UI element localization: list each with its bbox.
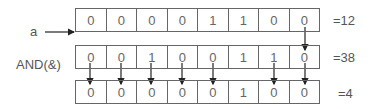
operand-a-value: =12: [333, 13, 355, 28]
operand-a-label: a: [30, 24, 37, 39]
result-value: =4: [338, 86, 353, 101]
bit-cell: 0: [198, 81, 229, 103]
and-operator-label: AND(&): [16, 57, 61, 72]
bit-cell: 0: [290, 81, 320, 103]
bit-cell: 1: [229, 46, 260, 68]
bit-cell: 0: [168, 9, 199, 31]
bit-cell: 0: [137, 9, 168, 31]
bit-cell: 0: [290, 9, 320, 31]
operand-a-bits: 0 0 0 0 1 1 0 0: [75, 8, 320, 32]
bit-cell: 1: [259, 46, 290, 68]
bit-cell: 0: [76, 46, 107, 68]
bit-cell: 0: [76, 81, 107, 103]
bit-cell: 1: [229, 9, 260, 31]
bit-cell: 0: [168, 46, 199, 68]
operand-b-value: =38: [333, 50, 355, 65]
bit-cell: 0: [76, 9, 107, 31]
bit-cell: 0: [168, 81, 199, 103]
result-bits: 0 0 0 0 0 1 0 0: [75, 80, 320, 104]
bit-cell: 0: [259, 81, 290, 103]
bit-cell: 0: [259, 9, 290, 31]
bit-cell: 0: [290, 46, 320, 68]
bitwise-and-diagram: a 0 0 0 0 1 1 0 0 =12 AND(&) 0 0 1 0 0 1…: [0, 0, 371, 109]
bit-cell: 0: [137, 81, 168, 103]
bit-cell: 1: [137, 46, 168, 68]
bit-cell: 0: [198, 46, 229, 68]
operand-b-bits: 0 0 1 0 0 1 1 0: [75, 45, 320, 69]
bit-cell: 1: [229, 81, 260, 103]
bit-cell: 0: [107, 46, 138, 68]
bit-cell: 0: [107, 9, 138, 31]
bit-cell: 1: [198, 9, 229, 31]
bit-cell: 0: [107, 81, 138, 103]
